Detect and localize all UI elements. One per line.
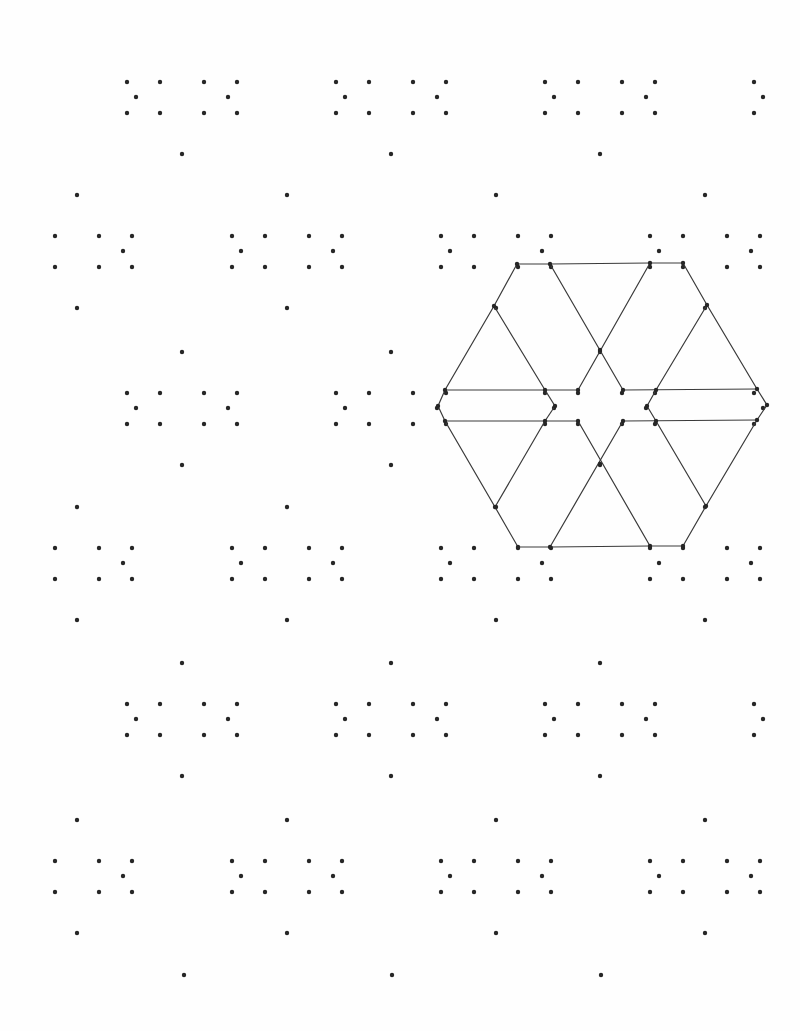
grid-dot — [202, 391, 206, 395]
grid-dot — [53, 577, 57, 581]
hexagon-vertex-dot — [543, 388, 547, 392]
grid-dot — [202, 111, 206, 115]
hexagon-vertex-dot — [492, 304, 496, 308]
grid-dot — [97, 859, 101, 863]
grid-dot — [657, 249, 661, 253]
grid-dot — [230, 890, 234, 894]
grid-dot — [752, 111, 756, 115]
hexagon-vertex-dot — [648, 544, 652, 548]
grid-dot — [202, 422, 206, 426]
hexagon-vertex-dot — [515, 262, 519, 266]
grid-dot — [749, 874, 753, 878]
dot-grid-canvas — [0, 0, 800, 1031]
grid-dot — [343, 717, 347, 721]
grid-dot — [648, 890, 652, 894]
grid-dot — [389, 463, 393, 467]
grid-dot — [494, 193, 498, 197]
hexagon-vertex-dot — [648, 261, 652, 265]
grid-dot — [367, 422, 371, 426]
hexagon-vertex-dot — [621, 388, 625, 392]
grid-dot — [235, 111, 239, 115]
grid-dot — [130, 265, 134, 269]
grid-dot — [648, 577, 652, 581]
grid-dot — [180, 350, 184, 354]
dot-grid — [53, 80, 765, 977]
grid-dot — [226, 95, 230, 99]
grid-dot — [158, 422, 162, 426]
grid-dot — [307, 265, 311, 269]
grid-dot — [343, 95, 347, 99]
grid-dot — [516, 890, 520, 894]
grid-dot — [53, 890, 57, 894]
dot-grid-worksheet — [0, 0, 800, 1031]
grid-dot — [681, 577, 685, 581]
hexagon-vertex-dot — [705, 303, 709, 307]
grid-dot — [448, 874, 452, 878]
grid-dot — [340, 890, 344, 894]
grid-dot — [657, 561, 661, 565]
grid-dot — [576, 702, 580, 706]
grid-dot — [576, 80, 580, 84]
grid-dot — [180, 152, 184, 156]
grid-dot — [97, 890, 101, 894]
hexagon-line — [623, 389, 757, 390]
grid-dot — [331, 249, 335, 253]
grid-dot — [448, 561, 452, 565]
grid-dot — [758, 546, 762, 550]
grid-dot — [285, 306, 289, 310]
grid-dot — [334, 733, 338, 737]
grid-dot — [125, 80, 129, 84]
grid-dot — [653, 80, 657, 84]
grid-dot — [494, 818, 498, 822]
grid-dot — [307, 234, 311, 238]
grid-dot — [334, 111, 338, 115]
hexagon-vertex-dot — [755, 418, 759, 422]
grid-dot — [681, 859, 685, 863]
grid-dot — [620, 111, 624, 115]
grid-dot — [576, 111, 580, 115]
grid-dot — [725, 859, 729, 863]
grid-dot — [758, 890, 762, 894]
grid-dot — [97, 577, 101, 581]
hexagon-line — [647, 406, 656, 421]
grid-dot — [125, 391, 129, 395]
hexagon-vertex-dot — [765, 403, 769, 407]
grid-dot — [285, 818, 289, 822]
grid-dot — [543, 80, 547, 84]
grid-dot — [158, 111, 162, 115]
grid-dot — [389, 774, 393, 778]
grid-dot — [472, 577, 476, 581]
hexagon-vertex-dot — [681, 544, 685, 548]
hexagon-vertex-dot — [548, 262, 552, 266]
hexagon-line — [623, 420, 757, 421]
grid-dot — [130, 890, 134, 894]
grid-dot — [331, 874, 335, 878]
grid-dot — [226, 406, 230, 410]
grid-dot — [235, 422, 239, 426]
grid-dot — [340, 577, 344, 581]
grid-dot — [121, 561, 125, 565]
grid-dot — [340, 546, 344, 550]
grid-dot — [472, 265, 476, 269]
grid-dot — [543, 111, 547, 115]
hexagon-vertex-dot — [553, 404, 557, 408]
grid-dot — [599, 973, 603, 977]
grid-dot — [307, 546, 311, 550]
grid-dot — [411, 422, 415, 426]
grid-dot — [263, 265, 267, 269]
grid-dot — [367, 111, 371, 115]
grid-dot — [158, 733, 162, 737]
grid-dot — [389, 152, 393, 156]
grid-dot — [620, 702, 624, 706]
grid-dot — [653, 733, 657, 737]
grid-dot — [239, 249, 243, 253]
hexagon-line — [656, 421, 706, 506]
grid-dot — [435, 95, 439, 99]
grid-dot — [725, 577, 729, 581]
grid-dot — [53, 234, 57, 238]
grid-dot — [552, 95, 556, 99]
grid-dot — [202, 80, 206, 84]
grid-dot — [340, 265, 344, 269]
grid-dot — [681, 890, 685, 894]
grid-dot — [285, 505, 289, 509]
